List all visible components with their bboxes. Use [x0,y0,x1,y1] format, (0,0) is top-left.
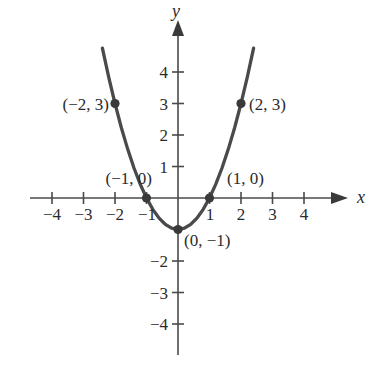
y-axis-label: y [172,2,180,20]
y-axis-arrow-icon [172,20,184,36]
point-marker-1-0 [205,193,214,202]
point-label--2-3: (−2, 3) [63,95,109,112]
point-label-2-3: (2, 3) [249,95,286,112]
y-tick-label-3: 3 [160,95,169,112]
y-tick-label-2: 2 [160,127,169,144]
point-marker--1-0 [142,193,151,202]
y-tick-label--2: −2 [150,253,168,270]
x-axis-label: x [357,188,365,206]
y-tick-label--4: −4 [150,316,168,333]
x-tick-label-2: 2 [237,206,246,223]
coordinate-plane-svg [0,0,381,366]
y-tick-label--3: −3 [150,284,168,301]
y-tick-label-4: 4 [160,64,169,81]
point-label-0--1: (0, −1) [184,232,230,249]
point-label--1-0: (−1, 0) [106,170,152,187]
x-tick-label--1: −1 [138,206,156,223]
x-tick-label--4: −4 [43,206,61,223]
x-tick-label-4: 4 [300,206,309,223]
point-marker-2-3 [236,99,245,108]
x-axis-arrow-icon [331,192,348,204]
x-tick-label-1: 1 [206,206,215,223]
y-tick-label-1: 1 [160,158,169,175]
x-tick-label--3: −3 [74,206,92,223]
x-tick-label-3: 3 [268,206,277,223]
parabola-figure: y x −4 −3 −2 −1 1 2 3 4 4 3 2 1 −2 −3 −4… [0,0,381,366]
x-tick-label--2: −2 [106,206,124,223]
point-marker-0--1 [173,225,182,234]
point-marker--2-3 [110,99,119,108]
point-label-1-0: (1, 0) [227,170,264,187]
